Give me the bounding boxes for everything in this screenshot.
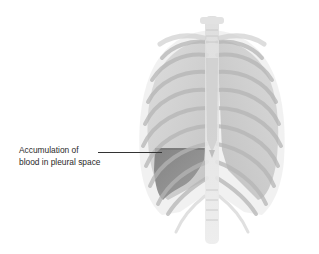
- thorax-svg: [0, 0, 319, 254]
- hemothorax-illustration: [0, 0, 319, 254]
- annotation-line-2: blood in pleural space: [19, 157, 100, 169]
- annotation-leader-line: [98, 152, 162, 153]
- annotation-label: Accumulation of blood in pleural space: [19, 145, 100, 168]
- annotation-line-1: Accumulation of: [19, 145, 100, 157]
